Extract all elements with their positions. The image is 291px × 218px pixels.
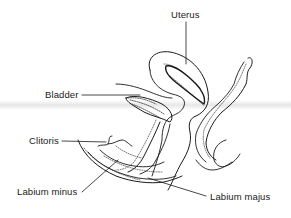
labium-minus-outline — [100, 150, 164, 167]
labium-majus-leader — [148, 178, 206, 196]
clitoris-outline — [98, 136, 132, 146]
label-uterus: Uterus — [171, 9, 200, 20]
label-labium-majus: Labium majus — [210, 191, 270, 202]
posterior-fold — [214, 140, 240, 167]
labium-minus-leader — [82, 160, 118, 192]
perineum-curve — [196, 160, 232, 170]
label-bladder: Bladder — [45, 89, 78, 100]
label-labium-minus: Labium minus — [17, 186, 77, 197]
clitoris-leader — [62, 141, 106, 142]
label-clitoris: Clitoris — [29, 135, 59, 146]
bladder-shading — [128, 98, 164, 118]
bladder-outline — [126, 96, 172, 122]
vulva-shading — [84, 146, 162, 180]
urethra-dots — [116, 120, 156, 170]
anterior-vaginal-wall — [128, 122, 160, 172]
anatomy-diagram: Uterus Bladder Clitoris Labium minus Lab… — [0, 0, 291, 218]
